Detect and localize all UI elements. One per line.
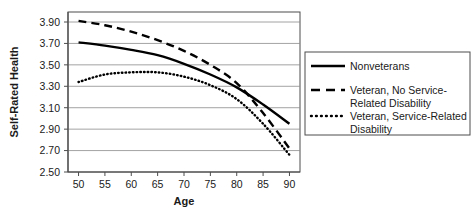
- x-axis-title: Age: [174, 195, 195, 207]
- x-tick-label: 70: [178, 178, 190, 190]
- y-tick-label: 3.10: [40, 102, 61, 114]
- legend-label-3-line2: Disability: [350, 123, 393, 135]
- plot-frame: [68, 12, 300, 172]
- y-tick-label: 3.50: [40, 59, 61, 71]
- y-tick-label: 3.90: [40, 16, 61, 28]
- legend-label-3: Veteran, Service-Related: [350, 110, 467, 122]
- x-tick-label: 65: [152, 178, 164, 190]
- x-tick-label: 85: [257, 178, 269, 190]
- y-axis-title: Self-Rated Health: [8, 46, 20, 137]
- series-line-3: [79, 72, 290, 155]
- series-group: [79, 21, 290, 155]
- line-chart: 3.903.703.503.303.102.902.702.5050556065…: [0, 0, 473, 215]
- y-tick-label: 2.50: [40, 166, 61, 178]
- y-tick-label: 3.30: [40, 80, 61, 92]
- x-tick-label: 90: [284, 178, 296, 190]
- legend-label-1: Nonveterans: [350, 60, 410, 72]
- x-tick-label: 75: [205, 178, 217, 190]
- y-tick-label: 3.70: [40, 37, 61, 49]
- x-tick-label: 80: [231, 178, 243, 190]
- x-tick-label: 55: [99, 178, 111, 190]
- legend-label-2-line2: Related Disability: [350, 97, 432, 109]
- series-line-1: [79, 42, 290, 123]
- y-tick-label: 2.70: [40, 144, 61, 156]
- x-tick-label: 60: [125, 178, 137, 190]
- chart-figure: 3.903.703.503.303.102.902.702.5050556065…: [0, 0, 473, 215]
- x-tick-label: 50: [73, 178, 85, 190]
- legend-label-2: Veteran, No Service-: [350, 84, 447, 96]
- y-tick-label: 2.90: [40, 123, 61, 135]
